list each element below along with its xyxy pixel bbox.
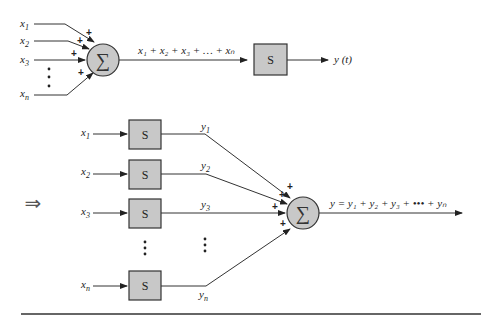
input-x2-label: x2 — [19, 34, 29, 49]
bottom-diagram: x1 S y1 x2 S y2 x3 S y3 xn S yn — [80, 120, 462, 303]
branch-output-label: y3 — [200, 198, 210, 213]
output-label: y (t) — [333, 53, 352, 66]
ellipsis-dot — [204, 244, 207, 247]
input-xn-line — [34, 73, 93, 95]
branch-output-label: y2 — [200, 159, 210, 174]
branch-output-label: yn — [198, 288, 208, 303]
plus-sign: + — [280, 218, 286, 229]
input-x3-label: x3 — [19, 53, 29, 68]
branch-output-line — [161, 229, 290, 286]
ellipsis-dot — [204, 238, 207, 241]
system-label: S — [267, 53, 274, 67]
superposition-diagram: x1 x2 x3 xn + + + + ∑ x₁ + x₂ + x₃ + … +… — [0, 0, 491, 321]
branch-output-line — [161, 174, 287, 204]
input-xn-label: xn — [19, 87, 29, 102]
sigma-icon: ∑ — [296, 202, 310, 225]
branch-input-label: x3 — [80, 205, 90, 220]
sum-expression: y = y₁ + y₂ + y₃ + ••• + yₙ — [329, 197, 447, 209]
system-label: S — [142, 207, 149, 221]
plus-sign: + — [77, 35, 83, 46]
ellipsis-dot — [144, 253, 147, 256]
system-label: S — [142, 128, 149, 142]
ellipsis-dot — [204, 250, 207, 253]
plus-sign: + — [78, 67, 84, 78]
ellipsis-dot — [48, 85, 51, 88]
plus-sign: + — [86, 27, 92, 38]
ellipsis-dot — [48, 76, 51, 79]
branch-input-label: xn — [80, 278, 90, 293]
system-label: S — [142, 168, 149, 182]
plus-sign: + — [71, 48, 77, 59]
input-x1-label: x1 — [19, 17, 29, 32]
sigma-icon: ∑ — [96, 49, 110, 72]
plus-sign: + — [279, 189, 285, 200]
input-x1-line — [34, 24, 94, 42]
plus-sign: + — [287, 181, 293, 192]
branch-output-label: y1 — [200, 120, 210, 135]
branch-input-label: x2 — [80, 165, 90, 180]
sum-expression: x₁ + x₂ + x₃ + … + xₙ — [137, 44, 235, 56]
ellipsis-dot — [144, 247, 147, 250]
top-diagram: x1 x2 x3 xn + + + + ∑ x₁ + x₂ + x₃ + … +… — [19, 17, 352, 102]
plus-sign: + — [272, 201, 278, 212]
branch-output-line — [161, 134, 290, 198]
branch-input-label: x1 — [80, 126, 90, 141]
system-label: S — [142, 279, 149, 293]
ellipsis-dot — [144, 241, 147, 244]
implies-arrow-icon: ⇒ — [25, 191, 42, 215]
ellipsis-dot — [48, 68, 51, 71]
